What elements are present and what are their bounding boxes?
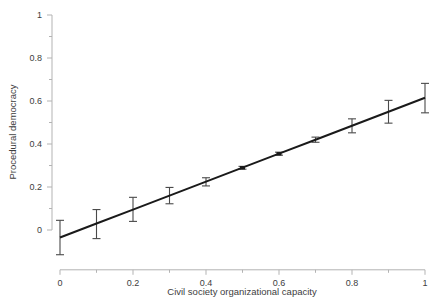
x-axis-title: Civil society organizational capacity [167,286,317,297]
x-tick-label: 0.8 [346,278,359,288]
plot-area: 00.20.40.60.81 00.20.40.60.81 Civil soci… [0,0,445,305]
figure-background [0,0,445,305]
data-point-marker [277,152,282,155]
y-tick-label: 0 [37,225,42,235]
y-tick-label: 0.4 [29,139,42,149]
y-tick-label: 0.6 [29,96,42,106]
y-tick-label: 0.8 [29,53,42,63]
x-tick-label: 0 [57,278,62,288]
y-tick-label: 0.2 [29,182,42,192]
x-tick-label: 1 [422,278,427,288]
data-point-marker [240,166,245,169]
x-tick-label: 0.2 [127,278,140,288]
y-tick-label: 1 [37,10,42,20]
chart-figure: 00.20.40.60.81 00.20.40.60.81 Civil soci… [0,0,445,305]
y-axis-title: Procedural democracy [7,84,18,179]
